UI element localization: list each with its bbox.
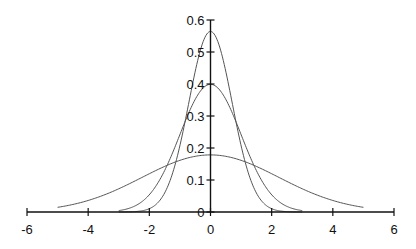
y-tick-label: 0.5 xyxy=(186,45,204,60)
x-tick-label: -2 xyxy=(144,222,156,237)
y-tick-label: 0.4 xyxy=(186,77,204,92)
y-tick-label: 0.3 xyxy=(186,109,204,124)
x-tick-label: -4 xyxy=(82,222,94,237)
normal-distribution-chart: -6-4-20246 00.10.20.30.40.50.6 xyxy=(0,0,416,249)
y-tick-label: 0.1 xyxy=(186,173,204,188)
x-tick-label: 2 xyxy=(268,222,275,237)
x-tick-label: 0 xyxy=(207,222,214,237)
x-tick-label: 6 xyxy=(390,222,397,237)
x-tick-label: -6 xyxy=(21,222,33,237)
y-tick-label: 0 xyxy=(197,205,204,220)
y-tick-label: 0.2 xyxy=(186,141,204,156)
x-tick-label: 4 xyxy=(329,222,336,237)
y-tick-label: 0.6 xyxy=(186,13,204,28)
y-axis: 00.10.20.30.40.50.6 xyxy=(186,13,214,220)
